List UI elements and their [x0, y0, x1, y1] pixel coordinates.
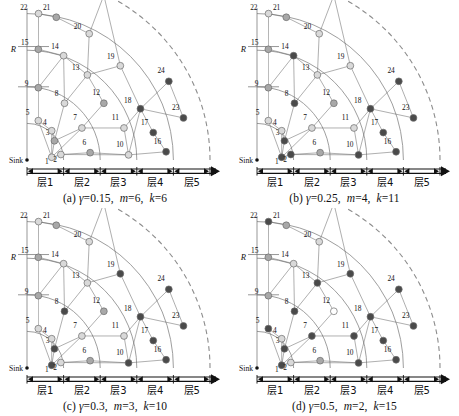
sensor-node-label-13: 13 [302, 63, 310, 72]
panel-c: 1234567891011121314151617181920212223242… [0, 208, 230, 416]
sensor-node-label-24: 24 [387, 66, 395, 75]
sensor-node-17 [380, 129, 387, 136]
sensor-node-19 [347, 270, 354, 277]
sensor-node-13 [314, 72, 321, 79]
sensor-node-label-21: 21 [43, 3, 51, 12]
sensor-node-label-19: 19 [107, 52, 115, 61]
sensor-node-label-16: 16 [154, 345, 162, 354]
panel-b-m-symbol: m [347, 192, 355, 204]
sensor-node-label-14: 14 [281, 42, 289, 51]
sensor-node-14 [290, 52, 297, 59]
sensor-node-label-15: 15 [251, 38, 259, 47]
edge [140, 289, 168, 316]
sink-label: Sink [239, 156, 253, 165]
sensor-node-label-1: 1 [275, 157, 279, 166]
sensor-node-label-19: 19 [107, 260, 115, 269]
sensor-node-2 [287, 151, 294, 158]
sensor-node-label-22: 22 [250, 3, 258, 12]
sensor-node-15 [35, 254, 42, 261]
layer-label-5: 层5 [414, 177, 430, 188]
sensor-node-2 [57, 151, 64, 158]
sensor-node-label-6: 6 [82, 346, 86, 355]
sensor-node-label-12: 12 [92, 88, 100, 97]
panel-d: 1234567891011121314151617181920212223242… [230, 208, 459, 416]
sensor-node-label-16: 16 [154, 137, 162, 146]
sensor-node-19 [117, 62, 124, 69]
sensor-node-24 [395, 286, 402, 293]
panel-a-caption-index: (a) [63, 192, 76, 204]
sensor-node-19 [117, 270, 124, 277]
sensor-node-8 [291, 100, 298, 107]
layer-label-3: 层3 [340, 385, 356, 396]
sensor-node-label-13: 13 [72, 271, 80, 280]
radius-label: R [240, 44, 247, 54]
edge [370, 289, 398, 316]
sensor-node-12 [100, 308, 107, 315]
sensor-node-label-5: 5 [26, 316, 30, 325]
sensor-node-label-22: 22 [250, 211, 258, 220]
sensor-node-17 [150, 337, 157, 344]
panel-b-caption-index: (b) [289, 192, 303, 204]
sensor-node-8 [291, 308, 298, 315]
panel-c-m-symbol: m [114, 400, 122, 412]
sensor-node-label-14: 14 [281, 250, 289, 259]
radius-label: R [240, 252, 247, 262]
sensor-node-label-21: 21 [273, 211, 281, 220]
sensor-node-label-14: 14 [51, 250, 59, 259]
sensor-node-label-7: 7 [73, 113, 77, 122]
sensor-node-label-15: 15 [251, 246, 259, 255]
sensor-node-15 [265, 254, 272, 261]
layer-label-1: 层1 [37, 177, 53, 188]
edge [370, 81, 398, 108]
sensor-node-label-8: 8 [55, 89, 59, 98]
sensor-node-4 [48, 335, 55, 342]
sensor-node-label-14: 14 [51, 42, 59, 51]
sensor-node-label-9: 9 [255, 79, 259, 88]
panel-d-caption-index: (d) [292, 400, 306, 412]
sink-label: Sink [239, 364, 253, 373]
layer-label-5: 层5 [184, 385, 200, 396]
edge [284, 128, 311, 141]
axis-end-arrow [211, 166, 220, 176]
sensor-node-label-10: 10 [116, 140, 124, 149]
sensor-node-20 [316, 30, 323, 37]
edge [54, 311, 64, 349]
sensor-node-label-2: 2 [283, 155, 287, 164]
edge [284, 311, 294, 349]
sensor-node-20 [86, 238, 93, 245]
sensor-node-label-23: 23 [402, 103, 410, 112]
sensor-node-11 [121, 125, 128, 132]
sink-node [255, 366, 259, 370]
sensor-node-6 [317, 357, 324, 364]
sensor-node-5 [265, 117, 272, 124]
sensor-node-21 [283, 222, 290, 229]
panel-b-caption: (b) γ=0.25, m=4, k=11 [230, 192, 459, 204]
sensor-node-14 [60, 260, 67, 267]
panel-c-gamma-value: 0.3 [90, 400, 105, 412]
sensor-node-23 [180, 323, 187, 330]
edge [129, 152, 167, 155]
sensor-node-14 [290, 260, 297, 267]
panel-a-caption: (a) γ=0.15, m=6, k=6 [0, 192, 230, 204]
sensor-node-label-7: 7 [73, 321, 77, 330]
sensor-node-24 [165, 78, 172, 85]
sensor-node-20 [86, 30, 93, 37]
sensor-node-label-1: 1 [275, 365, 279, 374]
sensor-node-label-10: 10 [346, 140, 354, 149]
panel-b: 1234567891011121314151617181920212223242… [230, 0, 459, 208]
sensor-node-23 [410, 115, 417, 122]
edge [89, 0, 104, 34]
sensor-node-label-8: 8 [285, 297, 289, 306]
radius-label: R [10, 44, 17, 54]
sensor-node-label-4: 4 [43, 326, 47, 335]
sensor-node-label-17: 17 [141, 118, 149, 127]
edge [354, 336, 359, 363]
sensor-node-14 [60, 52, 67, 59]
sensor-node-label-6: 6 [312, 346, 316, 355]
sensor-node-label-17: 17 [371, 118, 379, 127]
sensor-node-8 [61, 308, 68, 315]
sensor-node-label-1: 1 [45, 365, 49, 374]
edge [140, 81, 168, 108]
layer-label-4: 层4 [147, 177, 163, 188]
sensor-node-17 [380, 337, 387, 344]
